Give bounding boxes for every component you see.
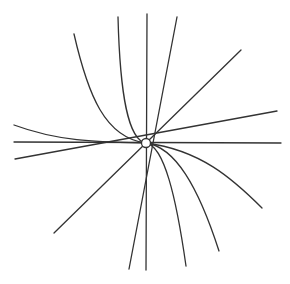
phase-portrait [0,0,290,284]
trajectory-curve-lower-right-mid [146,143,219,251]
trajectory-curve-upper-left-inner [118,17,146,143]
trajectory-curve-lower-right-inner [146,143,186,266]
trajectory-curve-upper-left-outer [74,34,146,143]
trajectory-curve-left-tangent [14,125,146,143]
equilibrium-node [142,139,151,148]
trajectory-curve-lower-right-outer [146,143,262,208]
